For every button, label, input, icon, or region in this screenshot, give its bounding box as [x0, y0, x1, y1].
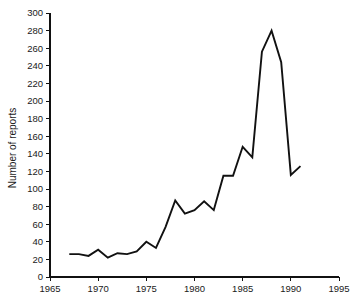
y-tick-label: 120 [27, 166, 43, 177]
y-tick-label: 40 [32, 236, 43, 247]
data-series-line [69, 31, 300, 258]
x-axis-group: 1965197019751980198519901995 [39, 277, 349, 294]
x-tick-label: 1980 [184, 283, 205, 294]
y-tick-label: 20 [32, 254, 43, 265]
y-tick-label: 80 [32, 201, 43, 212]
y-tick-label: 240 [27, 60, 43, 71]
y-tick-label: 280 [27, 25, 43, 36]
x-tick-label: 1990 [280, 283, 301, 294]
x-tick-label: 1970 [88, 283, 109, 294]
y-tick-label: 200 [27, 95, 43, 106]
y-tick-label: 60 [32, 219, 43, 230]
y-tick-label: 220 [27, 78, 43, 89]
y-tick-label: 100 [27, 183, 43, 194]
y-tick-label: 180 [27, 113, 43, 124]
line-chart: 0204060801001201401601802002202402602803… [0, 0, 351, 305]
x-axis-ticks: 1965197019751980198519901995 [39, 277, 349, 294]
y-axis-group: 0204060801001201401601802002202402602803… [27, 7, 50, 282]
y-axis-title: Number of reports [7, 108, 18, 189]
y-tick-label: 160 [27, 131, 43, 142]
chart-container: 0204060801001201401601802002202402602803… [0, 0, 351, 305]
x-tick-label: 1985 [232, 283, 253, 294]
x-tick-label: 1965 [39, 283, 60, 294]
x-tick-label: 1975 [136, 283, 157, 294]
x-tick-label: 1995 [328, 283, 349, 294]
y-tick-label: 0 [38, 271, 43, 282]
y-tick-label: 300 [27, 7, 43, 18]
y-tick-label: 260 [27, 43, 43, 54]
y-axis-ticks: 0204060801001201401601802002202402602803… [27, 7, 50, 282]
y-tick-label: 140 [27, 148, 43, 159]
series-group [69, 31, 300, 258]
